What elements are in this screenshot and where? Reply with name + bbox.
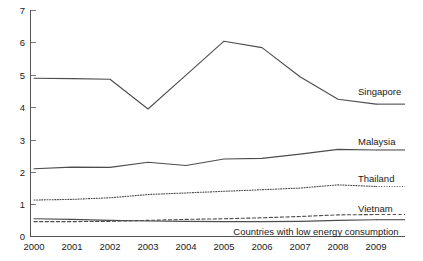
- y-tick-label-1: 1: [20, 199, 25, 210]
- x-tick-label-2007: 2007: [289, 241, 310, 252]
- series-line-malaysia: [34, 149, 376, 168]
- x-tick-label-2002: 2002: [99, 241, 120, 252]
- x-tick-label-2003: 2003: [137, 241, 158, 252]
- y-axis-ticks: [31, 11, 36, 237]
- line-chart: 7 6 5 4 3 2 1 0 2000 2001 2002 2003 2004…: [0, 0, 423, 261]
- chart-canvas: 7 6 5 4 3 2 1 0 2000 2001 2002 2003 2004…: [0, 0, 423, 261]
- y-tick-label-7: 7: [20, 5, 25, 16]
- x-axis: 2000 2001 2002 2003 2004 2005 2006 2007 …: [23, 237, 405, 253]
- x-tick-label-2004: 2004: [175, 241, 196, 252]
- y-tick-label-6: 6: [20, 37, 25, 48]
- x-tick-label-2006: 2006: [251, 241, 272, 252]
- y-tick-label-5: 5: [20, 70, 25, 81]
- series-lines: [34, 41, 405, 221]
- series-label-singapore: Singapore: [358, 86, 401, 97]
- x-tick-label-2009: 2009: [365, 241, 386, 252]
- y-tick-label-2: 2: [20, 167, 25, 178]
- series-label-vietnam: Vietnam: [358, 203, 393, 214]
- y-axis: 7 6 5 4 3 2 1 0: [20, 5, 36, 242]
- series-label-low-energy: Countries with low energy consumption: [233, 226, 398, 237]
- x-tick-label-2008: 2008: [327, 241, 348, 252]
- series-label-thailand: Thailand: [358, 173, 394, 184]
- x-tick-label-2001: 2001: [61, 241, 82, 252]
- x-tick-label-2005: 2005: [213, 241, 234, 252]
- x-tick-label-2000: 2000: [23, 241, 44, 252]
- series-label-malaysia: Malaysia: [358, 136, 396, 147]
- series-line-singapore: [34, 41, 376, 109]
- series-line-thailand: [34, 185, 376, 200]
- y-tick-label-3: 3: [20, 135, 25, 146]
- y-tick-label-4: 4: [20, 102, 25, 113]
